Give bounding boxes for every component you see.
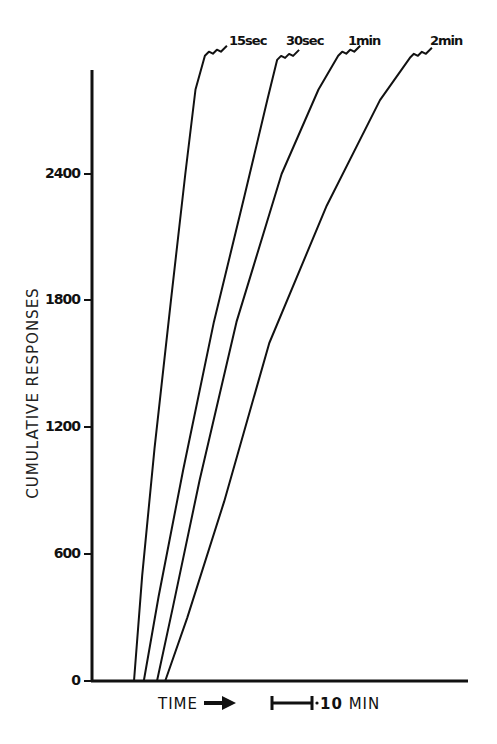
curve-1min (157, 46, 360, 681)
y-axis-label: CUMULATIVE RESPONSES (24, 273, 42, 513)
y-tick-label: 0 (40, 672, 80, 688)
y-tick-label: 1800 (40, 291, 80, 307)
curve-label-30sec: 30sec (286, 33, 323, 48)
scale-bar-label: 10 MIN (320, 695, 380, 713)
x-axis-label: TIME (158, 695, 198, 713)
y-tick-label: 600 (40, 545, 80, 561)
y-tick-label: 2400 (40, 165, 80, 181)
curve-label-1min: 1min (348, 33, 380, 48)
scale-value: 10 (320, 695, 343, 713)
curve-label-15sec: 15sec (229, 33, 266, 48)
curve-30sec (144, 50, 299, 681)
curve-15sec (134, 46, 227, 681)
y-tick-label: 1200 (40, 418, 80, 434)
curve-label-2min: 2min (430, 33, 462, 48)
cumulative-record-chart (0, 0, 497, 744)
scale-bar (272, 696, 319, 710)
cumulative-curves (134, 46, 432, 681)
scale-unit: MIN (349, 695, 381, 713)
time-arrow-icon (204, 696, 236, 710)
